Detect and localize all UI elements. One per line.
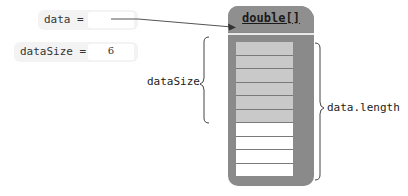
reference-arrow-icon xyxy=(111,19,236,31)
data-length-brace-icon xyxy=(315,43,324,180)
diagram-overlay xyxy=(0,0,408,196)
datasize-bracket-label: dataSize xyxy=(147,75,200,88)
datasize-brace-icon xyxy=(200,37,209,123)
data-length-bracket-label: data.length xyxy=(327,101,400,114)
